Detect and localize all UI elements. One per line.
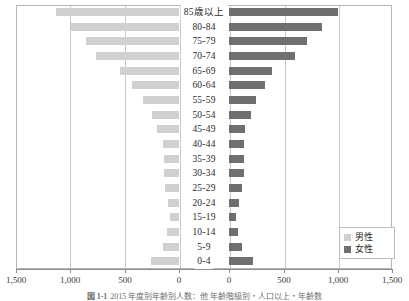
bar-female-30-34	[229, 169, 244, 177]
table-row: 5-9	[16, 240, 392, 255]
bar-female-0-4	[229, 257, 253, 265]
table-row: 45-49	[16, 122, 392, 137]
age-group-label: 60-64	[189, 78, 218, 93]
age-group-label: 80-84	[189, 20, 218, 35]
table-row: 30-34	[16, 166, 392, 181]
bar-female-80-84	[229, 23, 322, 31]
x-tick-left-1,500	[16, 269, 17, 273]
table-row: 70-74	[16, 49, 392, 64]
bar-male-80-84	[71, 23, 179, 31]
age-group-label: 55-59	[189, 93, 218, 108]
age-group-label: 40-44	[189, 137, 218, 152]
table-row: 60-64	[16, 78, 392, 93]
bar-male-30-34	[164, 169, 179, 177]
x-tick-left-0	[179, 269, 180, 273]
legend-swatch-male-icon	[344, 234, 351, 241]
bar-female-65-69	[229, 67, 272, 75]
table-row: 50-54	[16, 108, 392, 123]
x-tick-label-right-500: 500	[277, 275, 291, 285]
bar-female-25-29	[229, 184, 242, 192]
bar-female-10-14	[229, 228, 238, 236]
age-group-label: 25-29	[189, 181, 218, 196]
table-row: 40-44	[16, 137, 392, 152]
table-row: 0-4	[16, 254, 392, 269]
legend-label-male: 男性	[355, 231, 373, 243]
age-group-label: 65-69	[189, 64, 218, 79]
bar-male-25-29	[165, 184, 179, 192]
bar-male-0-4	[151, 257, 179, 265]
figure-caption: 図 1-12015 年度別年齢別人数：他 年齢階級別・人口以上・年齢数	[0, 290, 409, 301]
table-row: 20-24	[16, 196, 392, 211]
bar-female-15-19	[229, 213, 236, 221]
table-row: 25-29	[16, 181, 392, 196]
bar-male-65-69	[120, 67, 179, 75]
bar-male-15-19	[170, 213, 179, 221]
x-tick-right-1,500	[392, 269, 393, 273]
bar-male-35-39	[164, 155, 179, 163]
legend: 男性 女性	[339, 227, 395, 259]
x-tick-label-left-1,000: 1,000	[60, 275, 80, 285]
legend-item-female: 女性	[344, 243, 390, 255]
x-tick-label-right-1,000: 1,000	[328, 275, 348, 285]
bar-male-85歳以上	[56, 8, 179, 16]
age-group-label: 20-24	[189, 196, 218, 211]
age-group-label: 5-9	[194, 240, 213, 255]
bar-female-85歳以上	[229, 8, 338, 16]
bar-male-20-24	[168, 199, 179, 207]
age-group-label: 85歳以上	[181, 5, 228, 20]
table-row: 80-84	[16, 20, 392, 35]
x-tick-left-500	[125, 269, 126, 273]
x-tick-label-right-0: 0	[227, 275, 232, 285]
bar-male-70-74	[96, 52, 179, 60]
x-tick-left-1,000	[70, 269, 71, 273]
x-tick-right-1,000	[338, 269, 339, 273]
x-tick-label-right-1,500: 1,500	[382, 275, 402, 285]
bar-female-70-74	[229, 52, 295, 60]
x-tick-label-left-500: 500	[118, 275, 132, 285]
age-group-label: 50-54	[189, 108, 218, 123]
bar-female-35-39	[229, 155, 244, 163]
age-group-label: 35-39	[189, 152, 218, 167]
x-axis-line	[16, 269, 392, 270]
x-tick-right-0	[229, 269, 230, 273]
bar-male-75-79	[86, 37, 179, 45]
table-row: 65-69	[16, 64, 392, 79]
bar-female-75-79	[229, 37, 307, 45]
age-group-label: 30-34	[189, 166, 218, 181]
table-row: 35-39	[16, 152, 392, 167]
legend-item-male: 男性	[344, 231, 390, 243]
age-group-label: 10-14	[189, 225, 218, 240]
legend-label-female: 女性	[355, 243, 373, 255]
legend-swatch-female-icon	[344, 246, 351, 253]
bar-male-10-14	[167, 228, 179, 236]
x-tick-label-left-0: 0	[177, 275, 182, 285]
bar-male-60-64	[132, 81, 179, 89]
age-group-label: 0-4	[194, 254, 213, 269]
bar-female-60-64	[229, 81, 265, 89]
table-row: 15-19	[16, 210, 392, 225]
bar-female-45-49	[229, 125, 245, 133]
bar-female-50-54	[229, 111, 251, 119]
table-row: 85歳以上	[16, 5, 392, 20]
age-group-label: 75-79	[189, 34, 218, 49]
bar-male-45-49	[157, 125, 179, 133]
table-row: 55-59	[16, 93, 392, 108]
bar-female-40-44	[229, 140, 244, 148]
bar-female-5-9	[229, 243, 242, 251]
bar-male-50-54	[152, 111, 179, 119]
age-group-label: 70-74	[189, 49, 218, 64]
age-group-label: 15-19	[189, 210, 218, 225]
table-row: 75-79	[16, 34, 392, 49]
bar-male-5-9	[163, 243, 179, 251]
bar-male-55-59	[143, 96, 179, 104]
age-group-label: 45-49	[189, 122, 218, 137]
figure-caption-text: 2015 年度別年齢別人数：他 年齢階級別・人口以上・年齢数	[110, 292, 322, 301]
x-tick-label-left-1,500: 1,500	[6, 275, 26, 285]
bar-rows: 85歳以上80-8475-7970-7465-6960-6455-5950-54…	[16, 5, 392, 269]
bar-female-55-59	[229, 96, 256, 104]
bar-female-20-24	[229, 199, 239, 207]
figure-number: 図 1-1	[87, 292, 108, 301]
x-tick-right-500	[284, 269, 285, 273]
table-row: 10-14	[16, 225, 392, 240]
